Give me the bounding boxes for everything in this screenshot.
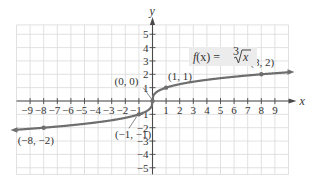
- radical-index: 3: [233, 44, 239, 58]
- curve-arrow-right-icon: [288, 69, 295, 75]
- curve-arrow-left-icon: [11, 127, 18, 133]
- y-tick-label: −4: [137, 148, 149, 160]
- y-tick-label: 4: [143, 42, 149, 54]
- point-marker: [164, 85, 168, 89]
- x-tick-label: −9: [21, 104, 33, 116]
- y-axis-label: y: [149, 4, 156, 18]
- point-label: (0, 0): [115, 75, 139, 88]
- x-tick-label: −5: [76, 104, 88, 116]
- x-tick-label: 6: [231, 104, 237, 116]
- x-tick-label: 5: [218, 104, 224, 116]
- y-tick-label: 5: [143, 28, 149, 40]
- x-tick-label: 2: [177, 104, 183, 116]
- x-tick-label: −7: [48, 104, 60, 116]
- y-tick-label: 2: [143, 68, 149, 80]
- x-tick-label: −3: [103, 104, 115, 116]
- point-marker: [137, 112, 141, 116]
- point-label: (1, 1): [168, 70, 192, 83]
- function-label-text: f(x) =: [193, 50, 220, 64]
- point-marker: [259, 72, 263, 76]
- x-tick-label: 9: [272, 104, 278, 116]
- point-marker: [42, 126, 46, 130]
- y-axis-arrow-icon: [150, 17, 155, 25]
- x-tick-label: 7: [245, 104, 251, 116]
- x-tick-label: 1: [163, 104, 169, 116]
- x-tick-label: 3: [191, 104, 197, 116]
- x-tick-label: −6: [62, 104, 74, 116]
- function-label: f(x) = 3x: [189, 44, 257, 66]
- y-tick-label: −5: [137, 162, 149, 174]
- x-axis-arrow-icon: [289, 98, 297, 103]
- point-label: (−1, −1): [115, 128, 152, 141]
- x-axis-label: x: [299, 94, 306, 108]
- y-tick-label: 3: [143, 55, 149, 67]
- point-label: (−8, −2): [18, 134, 55, 147]
- y-tick-label: 1: [143, 82, 149, 94]
- radicand: x: [242, 50, 249, 64]
- cube-root-graph: xy −9−8−7−6−5−4−3−2−1123456789−5−4−3−2−1…: [0, 0, 309, 192]
- x-tick-label: 8: [259, 104, 265, 116]
- x-tick-label: −4: [89, 104, 101, 116]
- x-tick-label: −8: [35, 104, 47, 116]
- x-tick-label: 4: [204, 104, 210, 116]
- x-tick-label: −2: [116, 104, 128, 116]
- point-marker: [150, 99, 154, 103]
- leader-line: [129, 116, 137, 128]
